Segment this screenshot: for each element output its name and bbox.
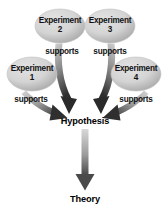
- edge-hypothesis-theory-arrow: [76, 129, 95, 191]
- diagram-canvas: [0, 0, 165, 216]
- node-experiment-3-shape: [85, 9, 135, 43]
- node-experiment-1-shape: [7, 57, 57, 91]
- edge-exp1-hypothesis-label: supports: [0, 95, 81, 104]
- node-experiment-2-shape: [35, 9, 85, 43]
- edge-exp4-hypothesis-label: supports: [86, 95, 165, 104]
- scientific-method-diagram: Experiment 2 Experiment 3 Experiment 1 E…: [0, 0, 165, 216]
- node-experiment-4-shape: [111, 57, 161, 91]
- edge-exp3-hypothesis-label: supports: [60, 47, 160, 56]
